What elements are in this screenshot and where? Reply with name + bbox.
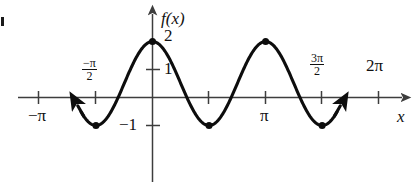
function-curve-sampled	[78, 42, 341, 126]
edge-marker	[1, 17, 4, 26]
function-graph-figure	[0, 0, 415, 187]
fraction-numerator: 3π	[310, 52, 324, 64]
x-tick-label-neg-pi: −π	[28, 107, 46, 124]
extremum-dot-minimum	[319, 122, 326, 129]
y-axis-label: f(x)	[161, 10, 185, 27]
x-tick-label-three-half-pi: 3π 2	[310, 52, 324, 78]
fraction-denominator: 2	[82, 69, 97, 82]
extremum-dot-maximum	[149, 38, 156, 45]
y-tick-label-2: 2	[164, 27, 173, 44]
graph-canvas	[0, 0, 415, 187]
extremum-dot-maximum	[262, 38, 269, 45]
extremum-dot-minimum	[92, 122, 99, 129]
x-tick-label-pi: π	[260, 107, 269, 124]
fraction-denominator: 2	[310, 64, 324, 77]
y-tick-label-neg-1: −1	[119, 116, 137, 133]
x-tick-label-two-pi: 2π	[366, 57, 383, 74]
x-axis	[18, 91, 402, 104]
x-axis-label: x	[397, 108, 405, 125]
fraction-numerator: −π	[82, 57, 97, 69]
extremum-dot-minimum	[206, 122, 213, 129]
x-tick-label-neg-half-pi: −π 2	[82, 57, 97, 83]
y-tick-label-1: 1	[164, 60, 173, 77]
